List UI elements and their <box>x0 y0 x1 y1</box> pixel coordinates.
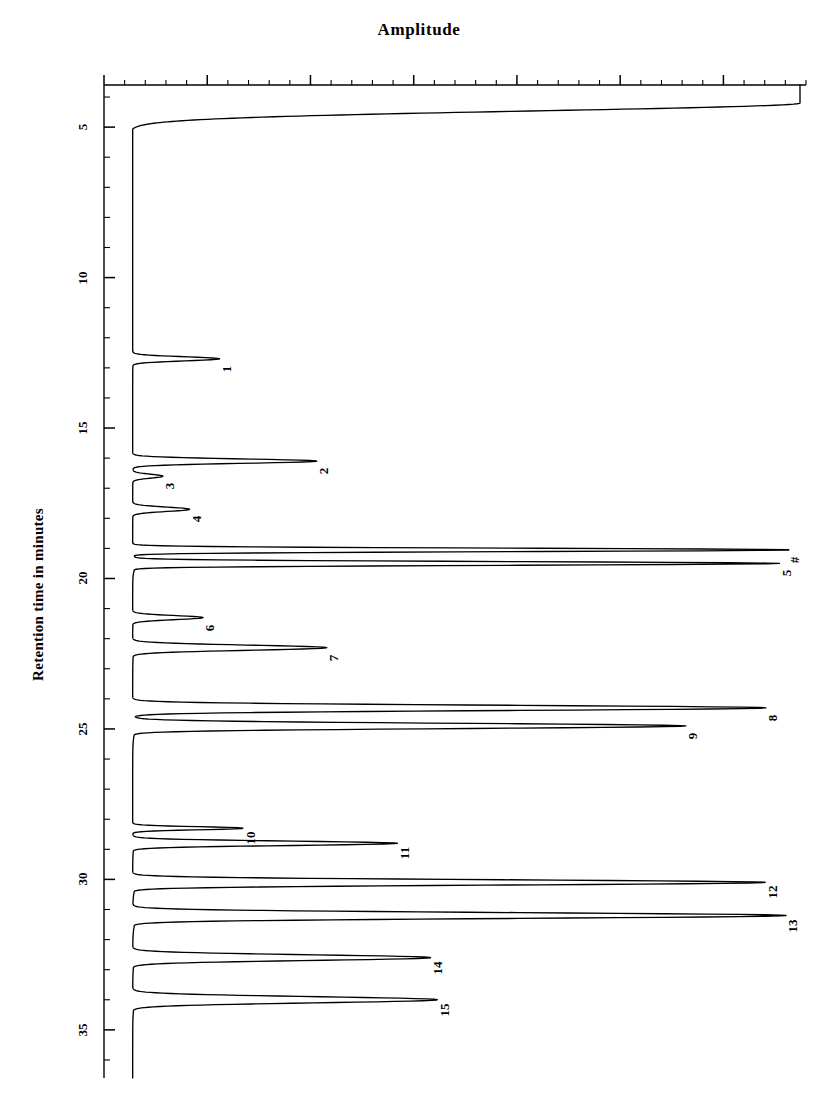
axis-lines <box>104 75 806 1078</box>
tick-label-10: 10 <box>75 265 91 291</box>
tick-label-15: 15 <box>75 415 91 441</box>
peak-label-12: 12 <box>765 881 781 903</box>
tick-label-35: 35 <box>75 1017 91 1043</box>
peak-label-9: 9 <box>685 725 701 747</box>
peak-label-8: 8 <box>765 707 781 729</box>
chromatogram-figure: Amplitude Retention time in minutes 5101… <box>0 0 838 1105</box>
peak-label-6: 6 <box>202 617 218 639</box>
peak-label-15: 15 <box>437 999 453 1021</box>
tick-label-5: 5 <box>75 114 91 140</box>
peak-label-2: 2 <box>316 460 332 482</box>
peak-label-3: 3 <box>162 475 178 497</box>
peak-label-1: 1 <box>219 358 235 380</box>
peak-label-5: 5 <box>779 562 795 584</box>
peak-label-13: 13 <box>785 915 801 937</box>
peak-label-11: 11 <box>397 842 413 864</box>
plot-area <box>0 0 838 1105</box>
peak-label-4: 4 <box>189 508 205 530</box>
chromatogram-trace <box>133 85 800 1078</box>
peak-label-14: 14 <box>430 957 446 979</box>
peak-label-7: 7 <box>326 647 342 669</box>
tick-label-20: 20 <box>75 565 91 591</box>
tick-label-30: 30 <box>75 866 91 892</box>
tick-label-25: 25 <box>75 716 91 742</box>
peak-label-10: 10 <box>243 827 259 849</box>
